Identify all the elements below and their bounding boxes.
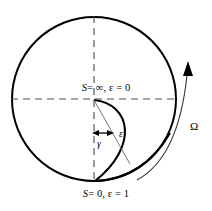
diagram-container: S= ∞, ε = 0 S= 0, ε = 1 γ ε Ω <box>0 0 212 211</box>
crescent-lower-arc <box>95 133 170 181</box>
omega-label: Ω <box>190 121 198 132</box>
bottom-boundary-condition-label: S= 0, ε = 1 <box>83 189 129 200</box>
gamma-double-arrow <box>92 130 114 136</box>
top-boundary-condition-label: S= ∞, ε = 0 <box>82 83 131 94</box>
bottom-boundary-value: = 0, <box>88 188 105 199</box>
diagram-canvas <box>0 0 212 211</box>
gamma-label: γ <box>97 139 101 149</box>
bottom-boundary-epsilon-term: ε = 1 <box>108 188 129 199</box>
epsilon-label: ε <box>119 129 123 139</box>
top-boundary-epsilon-term: ε = 0 <box>109 82 130 93</box>
top-boundary-value: = ∞, <box>87 82 106 93</box>
